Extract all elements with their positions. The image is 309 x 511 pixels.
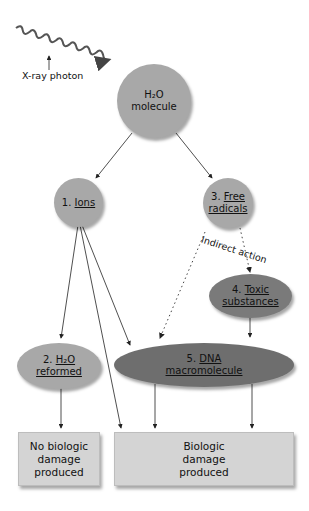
node-number: 5. — [187, 353, 200, 364]
box-line: produced — [179, 466, 228, 479]
h2o-molecule-node: H₂O molecule — [117, 64, 191, 138]
node-label: DNA — [199, 353, 221, 364]
node-number: 2. — [43, 354, 56, 365]
node-number: 1. — [62, 197, 75, 208]
node-label: Free — [224, 191, 245, 202]
node-label: reformed — [36, 366, 82, 378]
damage-box: Biologic damage produced — [114, 432, 294, 486]
box-line: No biologic — [30, 440, 88, 453]
node-number: 3. — [211, 191, 224, 202]
dna-macromolecule-node: 5. DNA macromolecule — [114, 343, 294, 387]
node-label: macromolecule — [166, 365, 243, 377]
ions-node: 1. Ions — [54, 178, 103, 227]
no-damage-box: No biologic damage produced — [18, 432, 100, 486]
node-label: substances — [222, 296, 278, 308]
box-line: Biologic — [183, 440, 224, 453]
h2o-reformed-node: 2. H₂O reformed — [17, 343, 101, 389]
toxic-substances-node: 4. Toxic substances — [209, 274, 292, 318]
xray-photon-wave — [15, 25, 110, 61]
node-label: H₂O — [56, 354, 75, 365]
box-line: damage — [183, 453, 226, 466]
node-label: radicals — [209, 203, 248, 215]
free-radicals-node: 3. Free radicals — [203, 178, 253, 228]
box-line: damage — [38, 453, 81, 466]
node-number: 4. — [232, 284, 245, 295]
node-label: Ions — [75, 197, 96, 208]
node-line: molecule — [131, 101, 177, 113]
xray-photon-label: X-ray photon — [22, 70, 83, 81]
box-line: produced — [34, 466, 83, 479]
node-line: H₂O — [144, 89, 163, 101]
node-label: Toxic — [245, 284, 269, 295]
